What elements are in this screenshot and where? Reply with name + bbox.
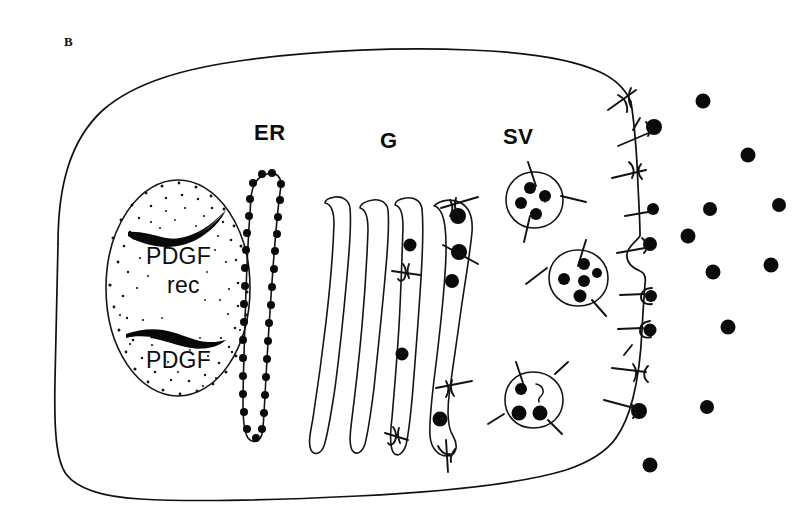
golgi-cisterna-3 xyxy=(391,198,423,455)
free-ligand-dot xyxy=(706,265,721,280)
nucleus-label-pdgf-rec-line2: rec xyxy=(167,272,200,298)
membrane-right-edge xyxy=(616,102,645,438)
secretory-vesicle-3 xyxy=(488,362,568,434)
nucleus-label-pdgf-rec-line1: PDGF xyxy=(146,243,211,269)
membrane-receptor-11 xyxy=(624,345,632,355)
sv3-receptor-hook xyxy=(536,384,543,402)
golgi-cisterna-2 xyxy=(350,200,388,453)
membrane-receptor-8 xyxy=(604,400,647,419)
cell-diagram: B xyxy=(0,0,811,526)
membrane-receptor-6 xyxy=(618,321,657,338)
free-ligand-dot xyxy=(703,202,717,216)
endoplasmic-reticulum: ER xyxy=(239,120,286,442)
free-ligand-dot xyxy=(696,94,711,109)
free-ligand-dot xyxy=(764,258,779,273)
free-ligand-dot xyxy=(772,198,786,212)
bound-ligand-9 xyxy=(647,203,659,215)
free-ligand-dot xyxy=(721,320,736,335)
secretory-vesicles: SV xyxy=(488,124,608,434)
free-ligand-dot xyxy=(741,148,756,163)
golgi-receptor-c3-upper xyxy=(392,264,420,281)
nucleus-label-pdgf: PDGF xyxy=(146,347,211,373)
golgi-label: G xyxy=(380,128,398,153)
figure-panel-b: B xyxy=(0,0,811,526)
free-ligand-dot xyxy=(643,458,658,473)
golgi-receptor-c4-bottom xyxy=(438,440,455,472)
secretory-vesicle-2 xyxy=(526,240,608,316)
golgi-receptor-c3-lower xyxy=(385,427,408,445)
nucleus: PDGF rec PDGF xyxy=(106,180,250,396)
sv2-cargo-dots xyxy=(558,258,602,303)
bound-ligand-6 xyxy=(644,324,657,337)
sv-label: SV xyxy=(503,124,533,149)
membrane-receptor-2 xyxy=(618,119,662,146)
free-ligand-dot xyxy=(681,229,696,244)
golgi-cisterna-1 xyxy=(310,197,351,454)
free-ligand-dot xyxy=(700,400,714,414)
bound-ligand-5 xyxy=(645,290,657,302)
membrane-receptors xyxy=(604,88,662,419)
sv1-receptor-spikes xyxy=(524,162,586,242)
er-label: ER xyxy=(254,120,286,145)
membrane-receptor-3 xyxy=(612,162,646,179)
sv3-outline xyxy=(505,372,563,428)
golgi-receptor-c4-lower xyxy=(436,380,472,397)
membrane-receptor-7 xyxy=(612,364,648,382)
membrane-receptor-9 xyxy=(625,203,659,216)
panel-letter: B xyxy=(64,34,73,49)
membrane-receptor-5 xyxy=(620,288,657,304)
extracellular-ligands xyxy=(643,94,787,473)
secretory-vesicle-1 xyxy=(506,162,586,242)
golgi-stack: G xyxy=(310,128,478,472)
